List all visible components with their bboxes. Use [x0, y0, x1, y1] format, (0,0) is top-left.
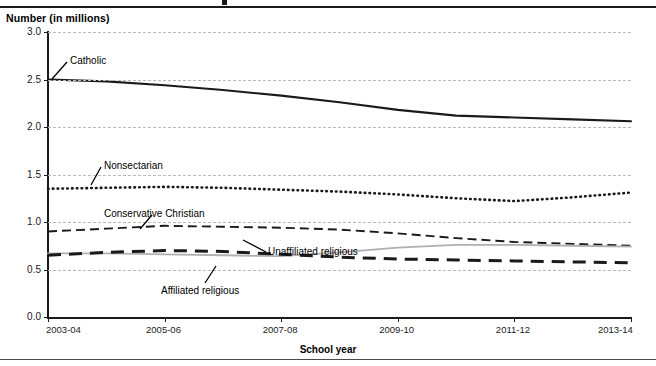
series-line-catholic	[48, 80, 631, 122]
annotation-label-catholic: Catholic	[70, 55, 106, 66]
clipped-title-descender	[222, 0, 227, 5]
annotation-label-conservative-christian: Conservative Christian	[104, 208, 205, 219]
x-tick-mark	[398, 317, 399, 322]
y-tick-label: 1.0	[27, 216, 41, 227]
top-divider-rule	[0, 6, 656, 8]
y-tick-mark	[44, 175, 48, 176]
gridline	[48, 175, 631, 176]
x-tick-mark	[514, 317, 515, 322]
chart-figure: Number (in millions) 0.00.51.01.52.02.53…	[0, 0, 656, 366]
y-tick-label: 0.5	[27, 264, 41, 275]
annotation-label-unaffiliated-religious: Unaffiliated religious	[268, 246, 358, 257]
x-tick-mark	[48, 317, 49, 322]
gridline	[48, 127, 631, 128]
annotation-label-nonsectarian: Nonsectarian	[104, 160, 163, 171]
gridline	[48, 222, 631, 223]
gridline	[48, 80, 631, 81]
x-tick-mark	[165, 317, 166, 322]
y-axis-title: Number (in millions)	[6, 12, 110, 24]
gridline	[48, 270, 631, 271]
gridline	[48, 32, 631, 33]
series-line-conservative-christian	[48, 226, 631, 246]
x-tick-mark	[281, 317, 282, 322]
y-tick-label: 2.5	[27, 74, 41, 85]
bottom-divider-rule	[0, 359, 656, 360]
y-tick-mark	[44, 222, 48, 223]
y-tick-label: 3.0	[27, 26, 41, 37]
x-tick-label: 2009-10	[379, 324, 414, 335]
y-tick-mark	[44, 32, 48, 33]
x-tick-label: 2003-04	[46, 324, 81, 335]
y-tick-mark	[44, 270, 48, 271]
y-tick-mark	[44, 127, 48, 128]
annotation-label-affiliated-religious: Affiliated religious	[161, 285, 239, 296]
y-tick-label: 1.5	[27, 169, 41, 180]
x-tick-mark	[631, 317, 632, 322]
y-tick-label: 0.0	[27, 311, 41, 322]
x-tick-label: 2005-06	[146, 324, 181, 335]
y-tick-label: 2.0	[27, 121, 41, 132]
y-tick-mark	[44, 80, 48, 81]
series-line-nonsectarian	[48, 187, 631, 201]
x-tick-label: 2011-12	[496, 324, 530, 335]
x-axis-line	[47, 317, 632, 319]
x-axis-title: School year	[0, 344, 656, 355]
x-tick-label: 2013-14	[598, 324, 633, 335]
x-tick-label: 2007-08	[263, 324, 298, 335]
